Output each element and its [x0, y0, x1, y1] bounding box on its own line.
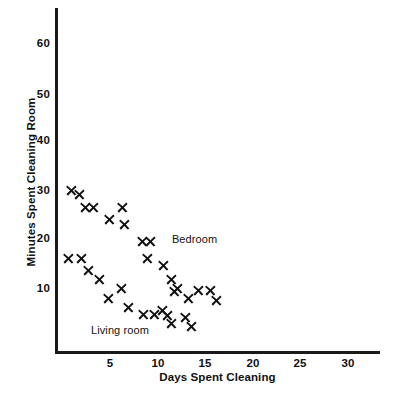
data-point: [104, 214, 115, 225]
data-point: [103, 293, 114, 304]
series-label-living-room: Living room: [91, 324, 149, 336]
data-point: [88, 202, 99, 213]
data-point: [183, 293, 194, 304]
series-label-bedroom: Bedroom: [172, 233, 217, 245]
scatter-plot-figure: 60 50 40 30 20 10 5 10 15 20 25 30 Days …: [0, 0, 400, 396]
data-point: [74, 189, 85, 200]
data-point: [166, 318, 177, 329]
data-point: [94, 274, 105, 285]
data-point: [211, 295, 222, 306]
data-point: [119, 219, 130, 230]
data-point: [145, 236, 156, 247]
plot-area: BedroomLiving room: [0, 0, 400, 396]
data-point: [123, 302, 134, 313]
data-point: [169, 286, 180, 297]
data-point: [76, 253, 87, 264]
data-point: [83, 265, 94, 276]
data-point: [158, 260, 169, 271]
data-point: [142, 253, 153, 264]
data-point: [116, 283, 127, 294]
data-point: [138, 309, 149, 320]
data-point: [186, 321, 197, 332]
data-point: [63, 253, 74, 264]
data-point: [117, 202, 128, 213]
data-point: [193, 285, 204, 296]
